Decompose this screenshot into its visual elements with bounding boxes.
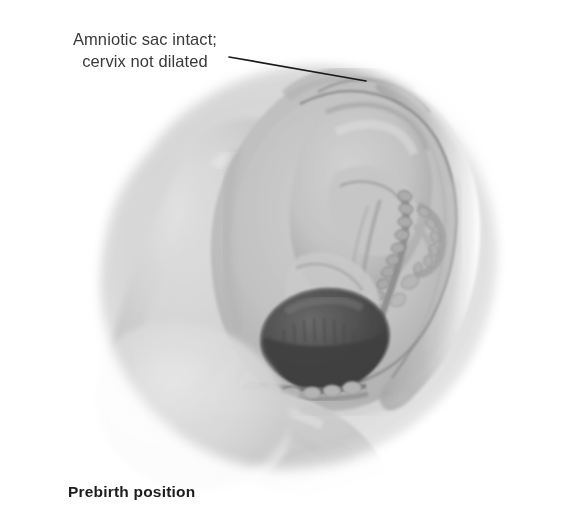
annotation-line-2: cervix not dilated	[40, 50, 250, 72]
annotation-line-1: Amniotic sac intact;	[40, 28, 250, 50]
figure-caption: Prebirth position	[68, 483, 195, 501]
prebirth-position-illustration	[0, 0, 567, 530]
annotation-label: Amniotic sac intact; cervix not dilated	[40, 28, 250, 72]
prebirth-position-figure: Amniotic sac intact; cervix not dilated …	[0, 0, 567, 530]
